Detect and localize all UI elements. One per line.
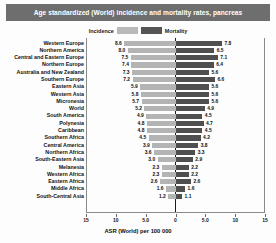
region-label: South America <box>0 112 84 119</box>
incidence-bar <box>132 70 176 75</box>
incidence-bar <box>166 186 176 191</box>
region-label: Northern Europe <box>0 61 84 68</box>
incidence-side: 2.6 <box>86 178 176 185</box>
row-bars: 3.93.8 <box>86 142 265 149</box>
incidence-value: 7.4 <box>122 61 129 68</box>
mortality-side: 4.5 <box>176 112 266 119</box>
chart-row: Central and Eastern Europe7.57.1 <box>0 54 276 61</box>
incidence-value: 5.2 <box>135 105 142 112</box>
incidence-side: 1.2 <box>86 193 176 200</box>
mortality-side: 5.6 <box>176 69 266 76</box>
mortality-value: 3.8 <box>201 142 208 149</box>
incidence-side: 3.6 <box>86 149 176 156</box>
mortality-bar <box>176 186 186 191</box>
region-label: Western Asia <box>0 91 84 98</box>
mortality-bar <box>176 179 192 184</box>
incidence-value: 1.2 <box>159 193 166 200</box>
mortality-bar <box>176 194 183 199</box>
row-bars: 2.32.2 <box>86 171 265 178</box>
incidence-bar <box>128 48 176 53</box>
chart-row: Eastern Africa2.62.6 <box>0 178 276 185</box>
mortality-side: 5.6 <box>176 98 266 105</box>
incidence-value: 5.7 <box>132 98 139 105</box>
chart-row: Caribbean4.84.5 <box>0 127 276 134</box>
chart-rows: Western Europe8.67.8Northern America8.06… <box>0 40 276 201</box>
incidence-value: 3.0 <box>148 156 155 163</box>
mortality-value: 4.9 <box>207 105 214 112</box>
mortality-bar <box>176 92 209 97</box>
incidence-bar <box>131 55 176 60</box>
chart-row: Western Africa2.32.2 <box>0 171 276 178</box>
mortality-side: 2.9 <box>176 156 266 163</box>
incidence-side: 5.8 <box>86 91 176 98</box>
mortality-side: 6.6 <box>176 76 266 83</box>
mortality-side: 6.5 <box>176 47 266 54</box>
region-label: Australia and New Zealand <box>0 69 84 76</box>
incidence-bar <box>140 84 175 89</box>
chart-row: Northern Africa3.63.3 <box>0 149 276 156</box>
incidence-side: 4.9 <box>86 112 176 119</box>
mortality-value: 4.5 <box>205 127 212 134</box>
chart-row: Southern Africa4.54.2 <box>0 134 276 141</box>
incidence-value: 1.6 <box>157 185 164 192</box>
incidence-bar <box>154 150 175 155</box>
chart-title-bar: Age standardized (World) incidence and m… <box>6 4 270 21</box>
chart-row: Western Europe8.67.8 <box>0 40 276 47</box>
incidence-value: 4.8 <box>138 120 145 127</box>
mortality-bar <box>176 99 209 104</box>
incidence-bar <box>168 194 175 199</box>
incidence-value: 7.5 <box>121 54 128 61</box>
x-tick-label: 10 <box>232 217 238 223</box>
chart-row: Australia and New Zealand7.35.6 <box>0 69 276 76</box>
mortality-side: 1.6 <box>176 185 266 192</box>
mortality-bar <box>176 165 189 170</box>
incidence-bar <box>158 157 176 162</box>
region-label: Caribbean <box>0 127 84 134</box>
mortality-value: 1.1 <box>185 193 192 200</box>
incidence-value: 4.5 <box>139 134 146 141</box>
mortality-side: 3.3 <box>176 149 266 156</box>
x-tick-label: 15 <box>83 217 89 223</box>
row-bars: 2.62.6 <box>86 178 265 185</box>
incidence-bar <box>141 92 176 97</box>
incidence-value: 2.3 <box>152 171 159 178</box>
mortality-value: 5.6 <box>211 98 218 105</box>
region-label: Eastern Asia <box>0 83 84 90</box>
mortality-side: 5.6 <box>176 91 266 98</box>
incidence-side: 4.8 <box>86 120 176 127</box>
row-bars: 4.84.5 <box>86 127 265 134</box>
chart-figure: Age standardized (World) incidence and m… <box>0 0 276 243</box>
chart-row: Eastern Asia5.95.6 <box>0 83 276 90</box>
mortality-value: 4.7 <box>206 120 213 127</box>
incidence-side: 7.5 <box>86 54 176 61</box>
region-label: Melanesia <box>0 164 84 171</box>
incidence-bar <box>162 172 176 177</box>
mortality-value: 2.9 <box>195 156 202 163</box>
region-label: Micronesia <box>0 98 84 105</box>
mortality-bar <box>176 157 193 162</box>
region-label: World <box>0 105 84 112</box>
chart-row: Micronesia5.75.6 <box>0 98 276 105</box>
mortality-value: 7.1 <box>220 54 227 61</box>
mortality-value: 3.3 <box>198 149 205 156</box>
x-axis: 15105.005.01015 <box>86 214 265 224</box>
chart-row: Southern Europe7.26.6 <box>0 76 276 83</box>
region-label: Polynesia <box>0 120 84 127</box>
mortality-side: 4.9 <box>176 105 266 112</box>
x-axis-label: ASR (World) per 100 000 <box>0 228 276 234</box>
mortality-value: 4.5 <box>205 112 212 119</box>
incidence-bar <box>160 179 176 184</box>
mortality-bar <box>176 143 199 148</box>
region-label: Northern Africa <box>0 149 84 156</box>
chart-row: South America4.94.5 <box>0 112 276 119</box>
legend-swatch-incidence <box>117 27 138 34</box>
mortality-bar <box>176 84 209 89</box>
incidence-value: 7.2 <box>123 76 130 83</box>
region-label: Southern Europe <box>0 76 84 83</box>
x-tick-label: 10 <box>113 217 119 223</box>
incidence-value: 2.6 <box>151 178 158 185</box>
row-bars: 5.85.6 <box>86 91 265 98</box>
chart-row: Western Asia5.85.6 <box>0 91 276 98</box>
mortality-side: 5.6 <box>176 83 266 90</box>
mortality-value: 4.2 <box>203 134 210 141</box>
